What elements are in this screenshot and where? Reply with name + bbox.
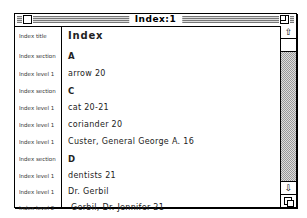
row-level2: Index level 2 Gerbil, Dr. Jennifer 21 — [15, 200, 280, 216]
row-level1: Index level 1 arrow 20 — [15, 66, 280, 82]
row-level1: Index level 1 Dr. Gerbil — [15, 184, 280, 200]
row-text[interactable]: cat 20-21 — [68, 100, 109, 116]
row-text[interactable]: C — [68, 83, 75, 99]
row-text[interactable]: Dr. Gerbil — [68, 184, 109, 200]
row-section: Index section A — [15, 48, 280, 64]
row-section: Index section C — [15, 83, 280, 99]
row-text[interactable]: dentists 21 — [68, 168, 116, 184]
vertical-scrollbar[interactable]: ⇧ ⇩ — [280, 26, 296, 207]
window-title: Index:1 — [129, 14, 182, 25]
style-name: Index level 1 — [19, 100, 61, 116]
index-window: Index:1 Index title Index Index section … — [14, 13, 297, 208]
style-name: Index level 1 — [19, 66, 61, 82]
row-text[interactable]: Index — [68, 28, 103, 44]
close-box-icon[interactable] — [23, 15, 32, 24]
style-name: Index level 2 — [19, 200, 61, 216]
row-level1: Index level 1 coriander 20 — [15, 117, 280, 133]
scroll-track[interactable] — [281, 38, 296, 183]
grow-box-icon[interactable] — [281, 195, 296, 207]
row-index-title: Index title Index — [15, 28, 280, 44]
row-section: Index section D — [15, 151, 280, 167]
row-text[interactable]: Custer, General George A. 16 — [68, 134, 194, 150]
style-name: Index section — [19, 48, 61, 64]
zoom-box-icon[interactable] — [280, 15, 289, 24]
style-name: Index level 1 — [19, 168, 61, 184]
style-name: Index title — [19, 28, 61, 44]
style-name: Index level 1 — [19, 117, 61, 133]
row-text[interactable]: D — [68, 151, 75, 167]
style-name: Index section — [19, 151, 61, 167]
row-level1: Index level 1 cat 20-21 — [15, 100, 280, 116]
row-text[interactable]: coriander 20 — [68, 117, 122, 133]
row-text[interactable]: A — [68, 48, 75, 64]
style-name: Index level 1 — [19, 134, 61, 150]
row-level1: Index level 1 Custer, General George A. … — [15, 134, 280, 150]
row-text[interactable]: Gerbil, Dr. Jennifer 21 — [71, 200, 164, 216]
style-name: Index level 1 — [19, 184, 61, 200]
style-name: Index section — [19, 83, 61, 99]
scroll-thumb[interactable] — [281, 38, 296, 52]
document-content[interactable]: Index title Index Index section A Index … — [15, 26, 280, 207]
scroll-down-arrow-icon[interactable]: ⇩ — [281, 181, 296, 195]
row-text[interactable]: arrow 20 — [68, 66, 106, 82]
row-level1: Index level 1 dentists 21 — [15, 168, 280, 184]
